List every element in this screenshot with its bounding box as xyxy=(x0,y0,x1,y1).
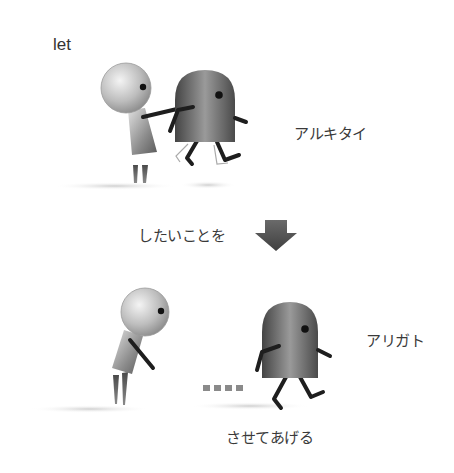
label-what-want: したいことを xyxy=(138,224,225,245)
label-let: let xyxy=(53,35,71,55)
label-walk-want: アルキタイ xyxy=(294,122,367,143)
bottom-panel xyxy=(30,288,330,413)
ground-shadow xyxy=(30,405,150,413)
ground-shadow xyxy=(53,182,177,190)
top-panel xyxy=(53,63,246,190)
dome-figure-walking xyxy=(257,302,330,408)
dome-figure xyxy=(170,70,246,164)
ground-shadow xyxy=(180,181,236,189)
label-thanks: アリガト xyxy=(366,329,424,350)
down-arrow-icon xyxy=(255,220,297,251)
ground-shadow xyxy=(190,402,310,410)
illustration-canvas xyxy=(0,0,454,473)
trail-dots xyxy=(203,385,243,391)
round-head-figure-bowing xyxy=(112,288,169,405)
label-let-do: させてあげる xyxy=(226,426,313,447)
